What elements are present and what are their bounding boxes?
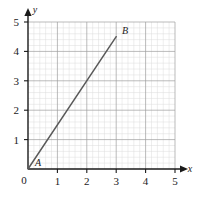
y-axis-arrowhead (24, 8, 31, 16)
x-tick-label-1: 1 (55, 175, 61, 187)
coordinate-graph-svg: 0 1 2 3 4 5 1 2 3 4 5 x y A B (0, 0, 198, 199)
y-tick-label-1: 1 (14, 134, 20, 146)
plot-background (28, 22, 175, 169)
y-tick-label-2: 2 (14, 104, 20, 116)
x-tick-label-2: 2 (84, 175, 90, 187)
y-tick-label-3: 3 (14, 75, 20, 87)
y-axis-label: y (32, 4, 38, 15)
y-tick-label-5: 5 (14, 16, 20, 28)
coordinate-graph-figure: 0 1 2 3 4 5 1 2 3 4 5 x y A B (0, 0, 198, 199)
x-tick-label-5: 5 (172, 175, 178, 187)
x-tick-label-4: 4 (143, 175, 149, 187)
x-tick-label-3: 3 (113, 175, 119, 187)
x-tick-label-0: 0 (21, 174, 27, 186)
point-b-label: B (122, 25, 128, 36)
point-a-label: A (34, 157, 42, 168)
x-axis-label: x (187, 163, 193, 174)
y-tick-label-4: 4 (14, 45, 20, 57)
